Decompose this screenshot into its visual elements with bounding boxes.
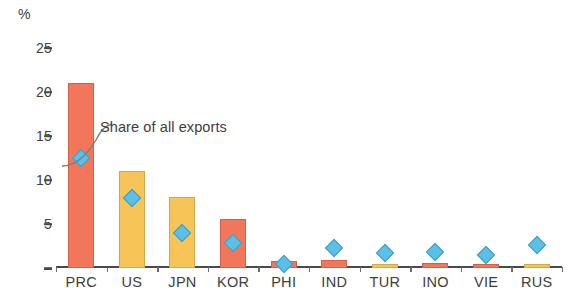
chart-container: % –510152025 PRCUSJPNKORPHIINDTURINOVIER… [0, 0, 570, 300]
bar [119, 171, 145, 268]
x-axis-tick-label: INO [422, 274, 449, 290]
x-axis-tick-mark [157, 267, 158, 272]
x-axis-tick-label: RUS [521, 274, 553, 290]
x-axis-tick-mark [410, 267, 411, 272]
x-axis-tick-mark [461, 267, 462, 272]
x-axis-tick-label: KOR [217, 274, 249, 290]
share-marker-diamond [376, 244, 394, 262]
share-marker-diamond [325, 239, 343, 257]
bar [68, 83, 94, 268]
x-axis-tick-label: IND [321, 274, 347, 290]
plot-area: PRCUSJPNKORPHIINDTURINOVIERUS [56, 20, 562, 268]
bar [473, 264, 499, 268]
y-axis-unit-label: % [18, 6, 31, 22]
bar-category-prc: PRC [56, 20, 107, 268]
x-axis-tick-mark [56, 267, 57, 272]
share-marker-diamond [426, 243, 444, 261]
y-axis-tick-mark [44, 47, 52, 49]
bar-category-jpn: JPN [157, 20, 208, 268]
bar-category-ino: INO [410, 20, 461, 268]
x-axis-tick-label: PHI [271, 274, 296, 290]
bar-category-phi: PHI [258, 20, 309, 268]
x-axis-tick-label: US [122, 274, 143, 290]
bar-category-rus: RUS [511, 20, 562, 268]
x-axis-tick-label: VIE [474, 274, 498, 290]
x-axis-tick-label: TUR [370, 274, 401, 290]
y-axis-tick-mark [44, 91, 52, 93]
bar [422, 263, 448, 268]
bar [524, 264, 550, 268]
x-axis-tick-mark [208, 267, 209, 272]
y-axis-tick-mark [44, 267, 52, 269]
share-marker-diamond [274, 255, 292, 273]
annotation-share-of-all-exports: Share of all exports [100, 119, 227, 135]
y-axis-tick-mark [44, 223, 52, 225]
x-axis-tick-mark [511, 267, 512, 272]
x-axis-tick-label: JPN [168, 274, 196, 290]
y-axis-tick-mark [44, 179, 52, 181]
bar-category-ind: IND [309, 20, 360, 268]
bar [372, 264, 398, 268]
y-axis-tick-mark [44, 135, 52, 137]
x-axis-tick-label: PRC [66, 274, 98, 290]
bar-category-kor: KOR [208, 20, 259, 268]
x-axis-tick-mark [107, 267, 108, 272]
bar-category-tur: TUR [360, 20, 411, 268]
share-marker-diamond [527, 236, 545, 254]
x-axis-tick-mark [562, 267, 563, 272]
share-marker-diamond [477, 246, 495, 264]
bar [321, 260, 347, 268]
bar-category-vie: VIE [461, 20, 512, 268]
x-axis-tick-mark [258, 267, 259, 272]
x-axis-tick-mark [360, 267, 361, 272]
x-axis-tick-mark [309, 267, 310, 272]
bar-category-us: US [107, 20, 158, 268]
